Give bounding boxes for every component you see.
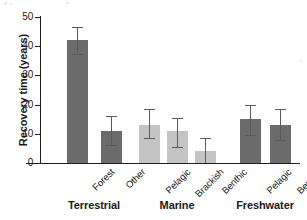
y-tick-mark	[35, 46, 40, 47]
y-tick-mark	[35, 134, 40, 135]
x-tick-label-freshwater-benthic: Benthic	[295, 167, 307, 196]
x-tick-label-freshwater-pelagic: Pelagic	[265, 167, 294, 196]
error-bar-line	[177, 118, 178, 147]
error-bar-cap-upper	[275, 109, 286, 110]
error-bar-cap-upper	[245, 105, 256, 106]
error-bar-cap-upper	[72, 27, 83, 28]
error-bar-cap-lower	[275, 140, 286, 141]
y-tick-mark	[35, 163, 40, 164]
x-tick-label-marine-pelagic: Pelagic	[164, 167, 193, 196]
error-bar-cap-upper	[200, 138, 211, 139]
error-bar-cap-lower	[106, 145, 117, 146]
scan-artifact	[66, 2, 69, 4]
error-bar-line	[111, 116, 112, 145]
error-bar-cap-lower	[144, 138, 155, 139]
error-bar-cap-upper	[106, 116, 117, 117]
x-tick-label-marine-brackish: Brackish	[193, 167, 225, 199]
error-bar-cap-lower	[245, 135, 256, 136]
error-bar-cap-upper	[172, 118, 183, 119]
error-bar-line	[280, 109, 281, 140]
y-tick-mark	[35, 17, 40, 18]
x-tick-label-terrestrial-other: Other	[124, 167, 148, 191]
bar-terrestrial-forest	[67, 40, 88, 163]
x-axis-line	[26, 163, 300, 164]
y-axis-title: Recovery time (years)	[17, 15, 29, 165]
error-bar-cap-upper	[144, 109, 155, 110]
error-bar-line	[250, 105, 251, 136]
x-tick-label-marine-benthic: Benthic	[220, 167, 249, 196]
scan-artifact	[300, 60, 302, 62]
error-bar-cap-lower	[72, 54, 83, 55]
y-tick-mark	[35, 75, 40, 76]
error-bar-line	[149, 109, 150, 138]
error-bar-line	[205, 138, 206, 163]
y-tick-mark	[35, 105, 40, 106]
plot-area	[41, 17, 300, 163]
bar-chart-figure: 01020304050 Recovery time (years) Forest…	[0, 0, 307, 220]
error-bar-cap-lower	[172, 147, 183, 148]
error-bar-line	[77, 27, 78, 53]
group-label-freshwater: Freshwater	[205, 199, 307, 211]
x-tick-label-terrestrial-forest: Forest	[91, 167, 117, 193]
